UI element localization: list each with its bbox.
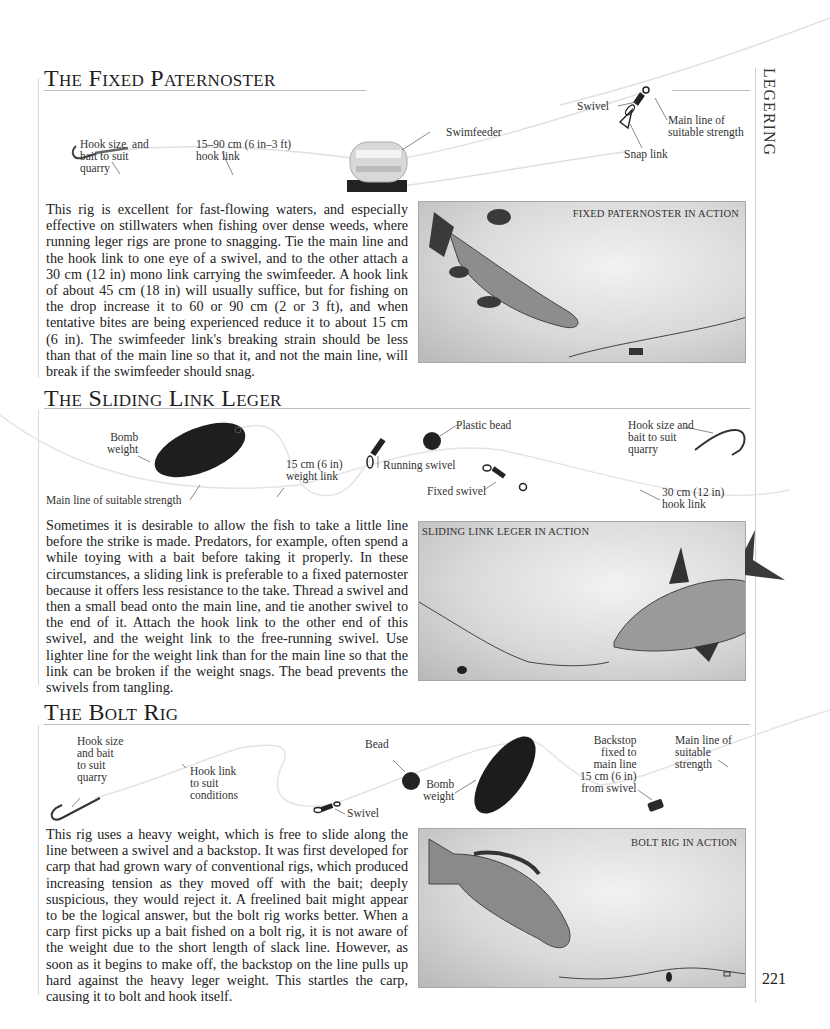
- label-snap-link: Snap link: [624, 148, 668, 160]
- label-bead: Bead: [365, 738, 389, 750]
- fish-hook-icon: [695, 430, 745, 455]
- bead-icon: [402, 772, 420, 790]
- snap-link-icon: [620, 110, 632, 128]
- bomb-weight-icon: [147, 412, 252, 489]
- label-running-swivel: Running swivel: [383, 459, 456, 471]
- label-main-line: Main line of suitable strength: [675, 734, 732, 770]
- fish-tail-overflow: [745, 530, 790, 590]
- swimfeeder-icon: [347, 142, 407, 192]
- section-body-fixed-paternoster: This rig is excellent for fast-flowing w…: [46, 201, 408, 379]
- section-body-bolt-rig: This rig uses a heavy weight, which is f…: [46, 826, 408, 1004]
- label-swivel: Swivel: [347, 807, 379, 819]
- fish-illustration: [419, 202, 746, 363]
- panel-caption: SLIDING LINK LEGER IN ACTION: [422, 526, 589, 537]
- panel-caption: FIXED PATERNOSTER IN ACTION: [573, 208, 739, 219]
- illustration-bolt-rig: BOLT RIG IN ACTION: [418, 828, 746, 988]
- label-weight-link: 15 cm (6 in) weight link: [286, 458, 343, 482]
- illustration-fixed-paternoster: FIXED PATERNOSTER IN ACTION: [418, 201, 746, 363]
- label-swimfeeder: Swimfeeder: [446, 126, 502, 138]
- fish-illustration: [419, 522, 746, 681]
- label-fixed-swivel: Fixed swivel: [427, 485, 486, 497]
- chapter-tab: LEGERING: [760, 68, 778, 156]
- label-plastic-bead: Plastic bead: [456, 419, 511, 431]
- label-backstop: Backstop fixed to main line 15 cm (6 in)…: [580, 734, 637, 794]
- backstop-icon: [647, 799, 664, 813]
- label-bomb-weight: Bomb weight: [107, 431, 138, 455]
- panel-caption: BOLT RIG IN ACTION: [631, 837, 737, 848]
- label-hook-size: Hook size and bait to suit quarry: [77, 735, 123, 783]
- label-hook-size: Hook size and bait to suit quarry: [80, 138, 149, 174]
- label-hook-link: Hook link to suit conditions: [190, 765, 238, 801]
- label-hook-size: Hook size and bait to suit quarry: [628, 419, 694, 455]
- page-number: 221: [762, 970, 786, 988]
- label-main-line: Main line of suitable strength: [46, 494, 181, 506]
- illustration-sliding-link-leger: SLIDING LINK LEGER IN ACTION: [418, 521, 746, 681]
- fish-hook-icon: [52, 798, 100, 820]
- label-hook-link: 15–90 cm (6 in–3 ft) hook link: [196, 138, 291, 162]
- bead-icon: [423, 432, 441, 450]
- swivel-icon: [624, 87, 649, 117]
- section-body-sliding-link-leger: Sometimes it is desirable to allow the f…: [46, 517, 408, 695]
- label-bomb-weight: Bomb weight: [423, 778, 454, 802]
- label-swivel: Swivel: [577, 100, 609, 112]
- label-hook-link: 30 cm (12 in) hook link: [662, 486, 724, 510]
- fish-illustration: [419, 829, 746, 988]
- label-main-line: Main line of suitable strength: [668, 114, 744, 138]
